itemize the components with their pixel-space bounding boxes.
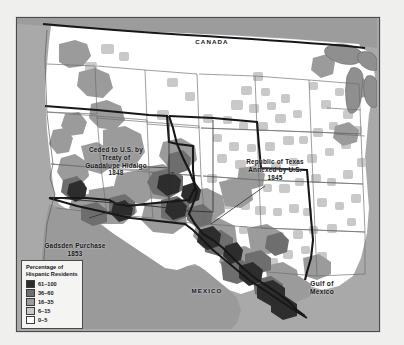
legend-label-61-100: 61–100 [38,281,57,287]
legend-title-line-2: Hispanic Residents [26,271,79,278]
legend-item-16-35: 16–35 [26,298,79,306]
map-legend: Percentage of Hispanic Residents 61–100 … [21,260,83,329]
legend-title: Percentage of Hispanic Residents [26,264,79,278]
legend-label-16-35: 16–35 [38,299,54,305]
legend-swatch-36-60 [26,289,35,297]
legend-swatch-16-35 [26,298,35,306]
legend-swatch-61-100 [26,280,35,288]
legend-item-61-100: 61–100 [26,280,79,288]
legend-label-36-60: 36–60 [38,290,54,296]
map-figure: CANADA MEXICO Gulf of Mexico Ceded to U.… [0,0,404,345]
legend-item-6-15: 6–15 [26,307,79,315]
legend-item-36-60: 36–60 [26,289,79,297]
legend-swatch-6-15 [26,307,35,315]
legend-label-0-5: 0–5 [38,317,47,323]
legend-label-6-15: 6–15 [38,308,50,314]
legend-swatch-0-5 [26,316,35,324]
legend-item-0-5: 0–5 [26,316,79,324]
legend-title-line-1: Percentage of [26,264,79,271]
